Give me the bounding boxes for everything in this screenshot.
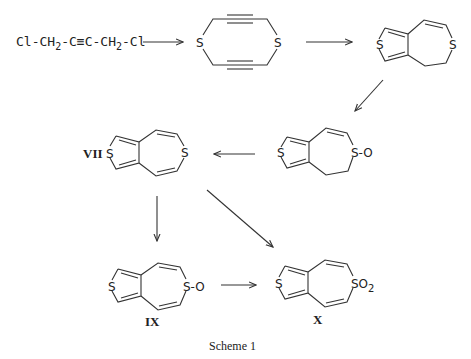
sulfur-atom: S bbox=[449, 38, 457, 52]
sulfur-atom: S bbox=[274, 36, 282, 50]
compound-diyne-dithiacycle: S S bbox=[196, 15, 282, 69]
compound-label: X bbox=[313, 312, 323, 327]
compound-label: VII bbox=[83, 146, 103, 161]
compound-X: S SO2 X bbox=[275, 260, 374, 327]
sulfur-atom: S bbox=[196, 36, 204, 50]
compound-dihydro-sulfoxide: S S-O bbox=[277, 128, 373, 175]
reaction-arrow-3 bbox=[355, 80, 383, 111]
sulfoxide-group: S-O bbox=[183, 280, 205, 294]
sulfur-atom: S bbox=[275, 277, 283, 291]
sulfur-atom: S bbox=[108, 280, 116, 294]
start-material-formula: Cl-CH2-C≡C-CH2-Cl bbox=[16, 34, 145, 52]
scheme-caption: Scheme 1 bbox=[209, 339, 256, 353]
compound-IX: S S-O IX bbox=[108, 263, 205, 329]
compound-dihydro-thienothiepin: S S bbox=[376, 20, 457, 66]
reaction-scheme: Cl-CH2-C≡C-CH2-Cl S S S S S S- bbox=[0, 0, 471, 359]
compound-label: IX bbox=[145, 314, 160, 329]
sulfur-atom: S bbox=[376, 38, 384, 52]
reaction-arrow-6 bbox=[207, 190, 273, 247]
sulfur-atom: S bbox=[277, 146, 285, 160]
svg-text:Cl-CH2-C≡C-CH2-Cl: Cl-CH2-C≡C-CH2-Cl bbox=[16, 34, 145, 52]
sulfoxide-group: S-O bbox=[351, 146, 373, 160]
sulfur-atom: S bbox=[106, 147, 114, 161]
compound-VII: VII S S bbox=[83, 130, 189, 176]
sulfone-group: SO2 bbox=[351, 277, 374, 294]
sulfur-atom: S bbox=[181, 146, 189, 160]
